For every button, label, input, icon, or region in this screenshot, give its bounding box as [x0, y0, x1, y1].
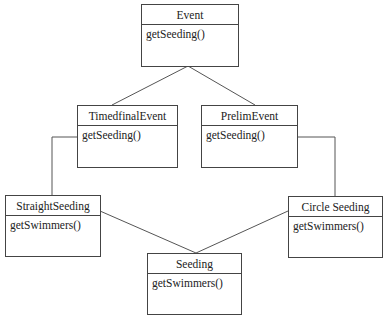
class-timedfinal-event[interactable]: TimedfinalEvent getSeeding(): [77, 105, 178, 168]
class-event[interactable]: Event getSeeding(): [141, 4, 239, 67]
link-straight-seeding: [100, 211, 196, 253]
link-prelim-circle: [297, 137, 335, 196]
class-circle-seeding[interactable]: Circle Seeding getSwimmers(): [288, 196, 383, 258]
link-timedfinal-event: [112, 66, 188, 105]
operation: getSwimmers(): [6, 216, 100, 232]
class-name: TimedfinalEvent: [78, 106, 177, 126]
operation: getSwimmers(): [148, 274, 241, 290]
operation: getSeeding(): [78, 126, 177, 142]
class-seeding[interactable]: Seeding getSwimmers(): [147, 253, 242, 315]
class-name: Seeding: [148, 254, 241, 274]
class-name: PrelimEvent: [202, 106, 297, 126]
link-timedfinal-straight: [52, 137, 77, 195]
link-circle-seeding: [196, 211, 288, 253]
operation: getSeeding(): [142, 25, 238, 41]
class-name: Event: [142, 5, 238, 25]
class-straight-seeding[interactable]: StraightSeeding getSwimmers(): [5, 195, 101, 257]
operation: getSeeding(): [202, 126, 297, 142]
class-prelim-event[interactable]: PrelimEvent getSeeding(): [201, 105, 298, 168]
link-prelim-event: [188, 66, 255, 105]
class-name: StraightSeeding: [6, 196, 100, 216]
operation: getSwimmers(): [289, 217, 382, 233]
class-name: Circle Seeding: [289, 197, 382, 217]
